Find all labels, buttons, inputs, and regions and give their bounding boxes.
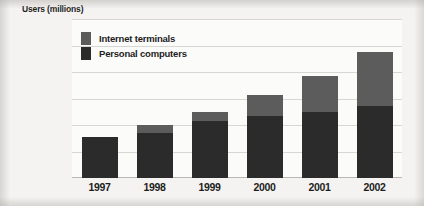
bar-segment-personal-computers: [302, 112, 338, 178]
bar-segment-internet-terminals: [192, 112, 228, 121]
x-tick-label-2002: 2002: [347, 181, 402, 193]
x-axis-tick-labels: 199719981999200020012002: [72, 181, 402, 201]
chart-legend: Internet terminals Personal computers: [81, 31, 187, 61]
bar-group-1997: [82, 137, 118, 178]
legend-swatch-personal-computers-icon: [81, 47, 91, 60]
bar-group-1998: [137, 125, 173, 178]
bar-group-2002: [357, 52, 393, 178]
bar-segment-personal-computers: [247, 116, 283, 178]
x-tick-label-1997: 1997: [72, 181, 127, 193]
bar-group-1999: [192, 112, 228, 178]
chart-figure: Users (millions) 020406080100120 1997199…: [0, 0, 424, 206]
x-tick-label-2001: 2001: [292, 181, 347, 193]
bar-group-2000: [247, 95, 283, 178]
bar-segment-internet-terminals: [302, 76, 338, 112]
bar-segment-personal-computers: [357, 106, 393, 178]
bar-segment-internet-terminals: [247, 95, 283, 116]
legend-item-personal-computers: Personal computers: [81, 46, 187, 60]
x-tick-label-2000: 2000: [237, 181, 292, 193]
bar-segment-personal-computers: [192, 121, 228, 178]
legend-label-personal-computers: Personal computers: [99, 48, 187, 59]
bar-segment-personal-computers: [137, 133, 173, 178]
bar-group-2001: [302, 76, 338, 178]
y-axis-title: Users (millions): [22, 4, 83, 14]
bar-segment-internet-terminals: [137, 125, 173, 133]
x-tick-label-1998: 1998: [127, 181, 182, 193]
bar-segment-internet-terminals: [357, 52, 393, 106]
x-tick-label-1999: 1999: [182, 181, 237, 193]
bar-segment-personal-computers: [82, 137, 118, 178]
legend-item-internet-terminals: Internet terminals: [81, 31, 187, 45]
legend-label-internet-terminals: Internet terminals: [99, 33, 175, 44]
legend-swatch-internet-terminals-icon: [81, 32, 91, 45]
